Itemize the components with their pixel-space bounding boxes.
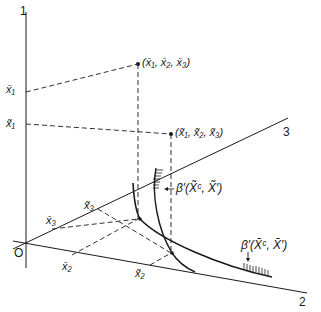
tilde-point-projections: [26, 124, 171, 265]
tilde-base-point: [170, 251, 174, 255]
bar-point-label: (x̄₁, x̄₂, x̄₃): [142, 57, 190, 68]
x2-tilde-tick-label: x̃₂: [135, 268, 145, 279]
bar-point-projections: [26, 64, 138, 255]
x3-tilde-tick-label: x̃₃: [84, 200, 94, 211]
tilde-curve-label: β′(X̃ᶜ, X̃′): [176, 182, 222, 194]
bar-arrow-head-icon: [246, 258, 250, 262]
x3-bar-tick-label: x̄₃: [46, 215, 56, 226]
axis-1-label: 1: [20, 5, 27, 17]
bar-curve-label: β′(X̄ᶜ, X̄′): [241, 239, 287, 251]
diagram-3d-coordinate-figure: 1 2 3 O (x̄₁, x̄₂, x̄₃) (x̃₁, x̃₂, x̃₃) …: [0, 0, 321, 312]
tilde-arrow-head-icon: [164, 187, 168, 191]
axis-3: [13, 118, 288, 249]
axis-3-label: 3: [283, 126, 290, 138]
bar-point-marker: [136, 62, 140, 66]
x2-bar-tick-label: x̄₂: [62, 261, 72, 272]
x1-bar-tick-label: x̄₁: [6, 84, 15, 95]
axis-2-label: 2: [299, 296, 306, 308]
tilde-curve-hatching: [153, 170, 163, 188]
tilde-point-marker: [169, 132, 173, 136]
diagram-canvas: [0, 0, 321, 312]
origin-label: O: [14, 247, 23, 259]
tilde-point-label: (x̃₁, x̃₂, x̃₃): [175, 127, 223, 138]
bar-base-point: [138, 217, 142, 221]
x1-tilde-tick-label: x̃₁: [6, 118, 15, 129]
